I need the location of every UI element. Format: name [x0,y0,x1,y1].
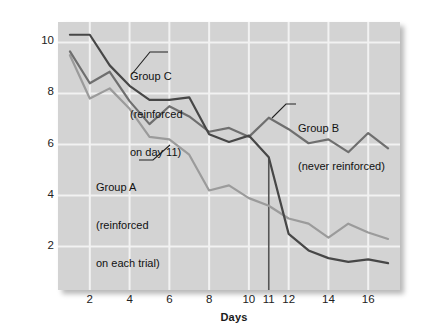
x-tick-label-2: 2 [87,293,93,305]
y-tick-label-4: 4 [32,188,54,200]
y-axis-tick-labels: 246810 [26,0,54,333]
x-axis-tick-labels: 24681011121416 [0,293,424,309]
x-tick-label-4: 4 [126,293,132,305]
x-tick-label-14: 14 [322,293,335,305]
y-tick-label-8: 8 [32,85,54,97]
y-tick-label-6: 6 [32,137,54,149]
x-tick-label-11: 11 [263,293,275,305]
x-axis-title: Days [0,311,424,323]
y-tick-label-10: 10 [32,34,54,46]
group-c-annotation-line-1: Group C [130,70,183,83]
group-b-annotation-line-1: Group B [298,122,385,135]
x-tick-label-8: 8 [206,293,212,305]
group-a-annotation-line-3: on each trial) [96,257,160,270]
x-axis-title-text: Days [220,311,247,323]
group-b-annotation: Group B (never reinforced) [298,97,385,198]
group-a-annotation-line-1: Group A [96,181,160,194]
group-a-annotation: Group A (reinforced on each trial) [96,156,160,295]
x-tick-label-10: 10 [242,293,255,305]
x-tick-label-16: 16 [362,293,375,305]
x-tick-label-6: 6 [166,293,172,305]
x-tick-label-12: 12 [282,293,295,305]
group-c-annotation-line-2: (reinforced [130,108,183,121]
group-a-annotation-line-2: (reinforced [96,219,160,232]
y-tick-label-2: 2 [32,239,54,251]
group-b-annotation-line-2: (never reinforced) [298,160,385,173]
latent-learning-line-chart: Mean number of errors 246810 Group C (re… [0,0,424,333]
